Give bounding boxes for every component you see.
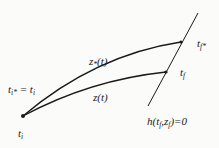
start-point — [21, 114, 25, 118]
terminal-surface-label: h(tf,zf)=0 — [147, 116, 187, 129]
final-time-label: tf — [180, 67, 185, 80]
start-time-label: ti — [18, 128, 23, 141]
optimal-trajectory-label: z*(t) — [89, 56, 107, 69]
end-point-star — [179, 40, 182, 43]
terminal-surface-line — [148, 13, 198, 106]
diagram-canvas: ti* = ti ti z*(t) z(t) tf* tf h(tf,zf)=0 — [0, 0, 219, 148]
final-time-star-label: tf* — [197, 38, 206, 51]
start-equality-label: ti* = ti — [8, 84, 35, 97]
trajectory-label: z(t) — [93, 92, 108, 103]
end-point — [164, 70, 167, 73]
